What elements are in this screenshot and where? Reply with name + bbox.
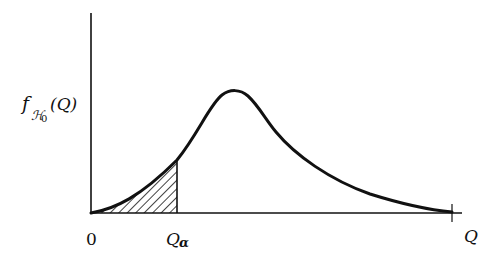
- x-axis-end-label: Q: [464, 226, 478, 246]
- rejection-region-hatch: [91, 150, 177, 213]
- y-axis-label-arg: (Q): [50, 94, 77, 114]
- x-critical-label: Q: [166, 229, 180, 249]
- x-origin-label: 0: [86, 229, 97, 249]
- x-critical-subscript: α: [179, 235, 189, 250]
- y-axis-label-index: 0: [41, 113, 47, 124]
- density-diagram: f ℋ 0 (Q) 0 Q α Q: [0, 0, 484, 262]
